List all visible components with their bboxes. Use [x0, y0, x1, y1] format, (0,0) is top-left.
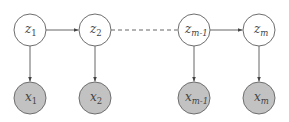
observed-node-xm: xm [243, 82, 275, 114]
latent-node-z2: z2 [79, 14, 111, 46]
edges [30, 30, 259, 82]
observed-node-x2: x2 [79, 82, 111, 114]
graphical-model-diagram: z1z2zm-1zmx1x2xm-1xm [0, 0, 289, 122]
latent-node-zm: zm [243, 14, 275, 46]
latent-node-z1: z1 [14, 14, 46, 46]
latent-node-zm1: zm-1 [178, 14, 210, 46]
nodes: z1z2zm-1zmx1x2xm-1xm [14, 14, 275, 114]
observed-node-xm1: xm-1 [178, 82, 210, 114]
observed-node-x1: x1 [14, 82, 46, 114]
